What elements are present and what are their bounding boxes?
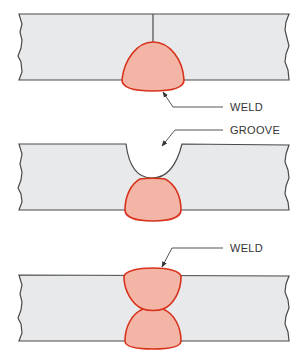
weld-bead-middle [125,178,181,221]
weld-diagram: WELD GROOVE WELD [0,0,299,362]
weld-label-1: WELD [230,101,263,113]
panel-top-butt-joint: WELD [18,14,289,113]
weld-label-2: WELD [230,242,263,254]
weld-leader-1 [163,92,223,107]
panel-bottom-double-weld: WELD [18,242,289,349]
groove-label: GROOVE [230,124,280,136]
panel-middle-groove: GROOVE [18,124,289,221]
weld-leader-2 [162,248,223,267]
